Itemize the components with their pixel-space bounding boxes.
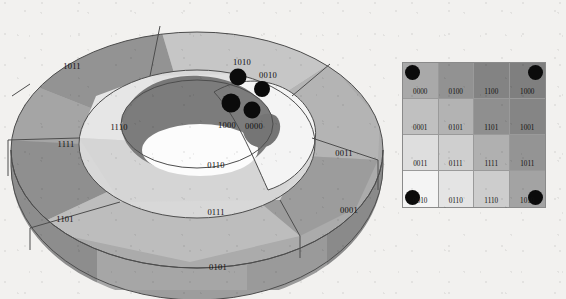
grid-cell-label: 1100 — [484, 88, 498, 96]
grid-cell-label: 0110 — [449, 197, 463, 205]
grid-cell-0-0: 0000 — [403, 63, 439, 99]
corner-dot-1000 — [528, 65, 543, 80]
grid-cell-label: 0011 — [413, 160, 427, 168]
grid-cell-3-1: 0110 — [439, 171, 475, 207]
grid-cell-label: 1110 — [484, 197, 498, 205]
grid-cell-label: 1101 — [484, 124, 498, 132]
grid-cell-1-0: 0001 — [403, 99, 439, 135]
corner-dot-0000 — [405, 65, 420, 80]
grid-cell-label: 0101 — [449, 124, 463, 132]
torus-dot-1000 — [222, 94, 241, 113]
grid-cell-label: 0000 — [413, 88, 427, 96]
grid-cell-label: 0111 — [449, 160, 463, 168]
grid-cell-2-2: 1111 — [474, 135, 510, 171]
code-grid: 0000 0100 1100 1000 0001 0101 1101 1001 … — [402, 62, 546, 208]
grid-cell-3-2: 1110 — [474, 171, 510, 207]
grid-cell-label: 1010 — [520, 197, 534, 205]
grid-cell-label: 1111 — [484, 160, 498, 168]
grid-cell-label: 1001 — [520, 124, 534, 132]
grid-cell-3-3: 1010 — [510, 171, 546, 207]
grid-cell-label: 0001 — [413, 124, 427, 132]
grid-cell-label: 0010 — [413, 197, 427, 205]
grid-cell-2-0: 0011 — [403, 135, 439, 171]
torus-dot-0000 — [244, 102, 261, 119]
grid-cell-1-3: 1001 — [510, 99, 546, 135]
grid-cell-1-1: 0101 — [439, 99, 475, 135]
grid-cell-label: 1011 — [520, 160, 534, 168]
torus-illustration — [8, 26, 387, 299]
grid-cell-1-2: 1101 — [474, 99, 510, 135]
grid-cell-2-1: 0111 — [439, 135, 475, 171]
grid-cell-0-1: 0100 — [439, 63, 475, 99]
grid-panel: 0000 0100 1100 1000 0001 0101 1101 1001 … — [402, 62, 546, 208]
torus-dot-1010 — [230, 69, 247, 86]
grid-cell-0-3: 1000 — [510, 63, 546, 99]
torus-dot-0010 — [254, 81, 270, 97]
grid-cell-3-0: 0010 — [403, 171, 439, 207]
grid-cell-0-2: 1100 — [474, 63, 510, 99]
grid-cell-label: 0100 — [449, 88, 463, 96]
grid-cell-2-3: 1011 — [510, 135, 546, 171]
grid-cell-label: 1000 — [520, 88, 534, 96]
